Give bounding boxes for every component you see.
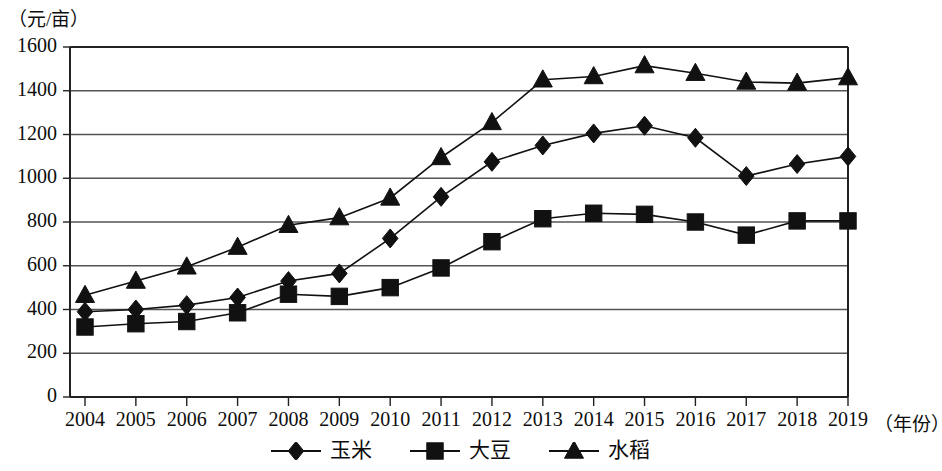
data-point-diamond	[637, 116, 653, 135]
y-tick-label: 800	[0, 209, 57, 232]
chart-legend: 玉米大豆水稻	[0, 440, 919, 461]
data-point-square	[280, 286, 296, 302]
data-point-square	[484, 233, 500, 249]
data-point-triangle	[533, 70, 552, 87]
data-point-diamond	[382, 229, 398, 248]
y-tick-label: 400	[0, 297, 57, 320]
data-point-diamond	[840, 147, 856, 166]
legend-label: 大豆	[469, 440, 511, 461]
legend-marker-triangle-icon	[547, 442, 601, 460]
x-tick-label: 2014	[568, 408, 620, 431]
data-point-triangle	[635, 56, 654, 73]
x-tick-label: 2016	[669, 408, 721, 431]
y-tick-label: 1200	[0, 122, 57, 145]
series-line	[85, 126, 848, 312]
x-tick-label: 2018	[771, 408, 823, 431]
data-point-triangle	[432, 147, 451, 164]
x-axis-title: （年份）	[874, 409, 942, 436]
legend-item-1[interactable]: 玉米	[269, 440, 372, 461]
data-point-diamond	[179, 296, 195, 315]
x-tick-label: 2004	[59, 408, 111, 431]
data-point-square	[128, 316, 144, 332]
data-point-square	[179, 313, 195, 329]
y-tick-label: 1000	[0, 165, 57, 188]
data-point-diamond	[535, 136, 551, 155]
legend-label: 水稻	[608, 440, 650, 461]
data-point-square	[535, 211, 551, 227]
data-point-triangle	[228, 237, 247, 254]
legend-marker-diamond-icon	[269, 442, 323, 460]
data-point-square	[687, 214, 703, 230]
data-point-triangle	[330, 208, 349, 225]
x-tick-label: 2005	[110, 408, 162, 431]
series-line	[85, 66, 848, 296]
data-point-diamond	[688, 128, 704, 147]
data-point-square	[585, 205, 601, 221]
x-tick-label: 2007	[212, 408, 264, 431]
data-point-diamond	[484, 152, 500, 171]
x-tick-label: 2009	[313, 408, 365, 431]
x-tick-label: 2010	[364, 408, 416, 431]
x-tick-label: 2017	[720, 408, 772, 431]
y-axis-unit-label: （元/亩）	[8, 4, 89, 31]
y-tick-label: 1600	[0, 34, 57, 57]
data-point-square	[738, 227, 754, 243]
data-point-diamond	[586, 124, 602, 143]
x-tick-label: 2013	[517, 408, 569, 431]
y-tick-label: 1400	[0, 78, 57, 101]
data-point-diamond	[433, 187, 449, 206]
x-tick-label: 2006	[161, 408, 213, 431]
data-point-diamond	[789, 155, 805, 174]
y-tick-label: 600	[0, 253, 57, 276]
data-point-diamond	[288, 442, 304, 460]
data-point-square	[840, 213, 856, 229]
data-point-square	[77, 319, 93, 335]
data-point-square	[229, 305, 245, 321]
data-point-square	[433, 260, 449, 276]
data-point-diamond	[332, 264, 348, 283]
x-tick-label: 2015	[619, 408, 671, 431]
data-point-square	[427, 442, 443, 458]
series-1	[77, 116, 856, 321]
data-point-triangle	[482, 112, 501, 129]
x-tick-label: 2011	[415, 408, 467, 431]
data-point-square	[331, 288, 347, 304]
data-point-diamond	[738, 167, 754, 186]
y-tick-label: 0	[0, 384, 57, 407]
legend-marker-square-icon	[408, 442, 462, 460]
data-point-square	[636, 206, 652, 222]
data-point-triangle	[381, 188, 400, 205]
y-tick-label: 200	[0, 340, 57, 363]
data-point-triangle	[839, 68, 858, 85]
data-point-square	[789, 213, 805, 229]
legend-item-2[interactable]: 大豆	[408, 440, 511, 461]
legend-label: 玉米	[330, 440, 372, 461]
x-tick-label: 2019	[822, 408, 874, 431]
data-point-square	[382, 279, 398, 295]
x-tick-label: 2012	[466, 408, 518, 431]
x-tick-label: 2008	[262, 408, 314, 431]
legend-item-3[interactable]: 水稻	[547, 440, 650, 461]
